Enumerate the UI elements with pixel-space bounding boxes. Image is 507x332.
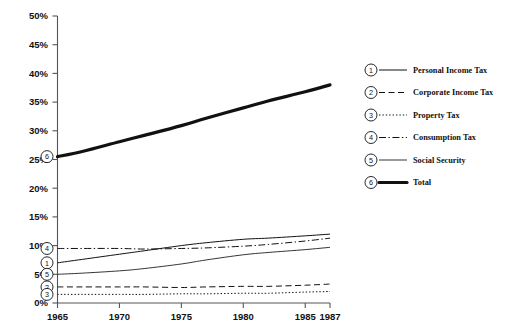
marker-number: 1 (45, 259, 49, 268)
marker-number: 6 (45, 152, 49, 161)
legend-marker-number: 2 (369, 88, 373, 97)
x-axis-ticks: 196519701975198019851987 (47, 303, 341, 322)
legend-label: Property Tax (413, 111, 460, 120)
legend-entry-personal[interactable]: 1Personal Income Tax (365, 64, 488, 76)
line-chart: 0%5%10%15%20%25%30%35%40%45%50% 19651970… (0, 0, 507, 332)
start-marker-personal: 1 (41, 257, 53, 269)
marker-number: 4 (45, 244, 49, 253)
chart-legend: 1Personal Income Tax2Corporate Income Ta… (365, 64, 494, 189)
y-tick-label: 50% (29, 10, 49, 21)
x-tick-label: 1985 (295, 311, 317, 322)
start-marker-consumption: 4 (41, 242, 53, 254)
legend-marker-number: 4 (369, 133, 373, 142)
y-tick-label: 15% (29, 211, 49, 222)
start-marker-property: 3 (41, 288, 53, 300)
series-line-total (58, 85, 331, 157)
legend-label: Personal Income Tax (413, 66, 488, 75)
start-marker-social: 5 (41, 268, 53, 280)
series-layer (58, 85, 331, 295)
legend-label: Corporate Income Tax (413, 88, 494, 97)
legend-marker-number: 5 (369, 156, 373, 165)
y-tick-label: 20% (29, 183, 49, 194)
series-line-corporate (58, 284, 331, 287)
x-tick-label: 1987 (319, 311, 340, 322)
legend-label: Total (413, 178, 432, 187)
x-tick-label: 1970 (109, 311, 130, 322)
series-line-social (58, 247, 331, 274)
y-tick-label: 40% (29, 68, 49, 79)
legend-entry-property[interactable]: 3Property Tax (365, 109, 460, 121)
y-tick-label: 30% (29, 125, 49, 136)
x-tick-label: 1965 (47, 311, 69, 322)
x-axis: 196519701975198019851987 (47, 303, 341, 322)
series-line-property (58, 292, 331, 295)
y-tick-label: 45% (29, 39, 49, 50)
legend-marker-number: 1 (369, 66, 373, 75)
x-tick-label: 1975 (171, 311, 193, 322)
legend-label: Consumption Tax (413, 133, 477, 142)
legend-marker-number: 6 (369, 178, 373, 187)
legend-marker-number: 3 (369, 111, 373, 120)
legend-entry-total[interactable]: 6Total (365, 177, 432, 189)
y-tick-label: 35% (29, 96, 49, 107)
legend-entry-social[interactable]: 5Social Security (365, 154, 467, 166)
marker-number: 3 (45, 290, 49, 299)
chart-container: 0%5%10%15%20%25%30%35%40%45%50% 19651970… (0, 0, 507, 332)
start-marker-layer: 123456 (41, 151, 53, 301)
start-marker-total: 6 (41, 151, 53, 163)
legend-entry-corporate[interactable]: 2Corporate Income Tax (365, 87, 494, 99)
legend-entry-consumption[interactable]: 4Consumption Tax (365, 132, 477, 144)
marker-number: 5 (45, 270, 49, 279)
legend-label: Social Security (413, 156, 467, 165)
x-tick-label: 1980 (233, 311, 254, 322)
